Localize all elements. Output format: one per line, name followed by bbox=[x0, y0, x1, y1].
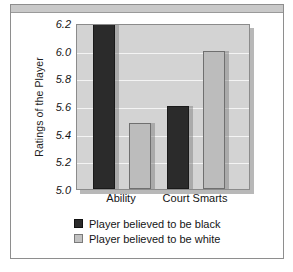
figure-top-band bbox=[11, 5, 283, 13]
bar bbox=[203, 51, 225, 189]
bar bbox=[167, 106, 189, 189]
legend-swatch-icon bbox=[74, 219, 83, 228]
y-axis-tick-label: 5.0 bbox=[47, 184, 71, 196]
figure: Ratings of the Player 5.05.25.45.65.86.0… bbox=[0, 0, 293, 272]
legend-swatch-icon bbox=[74, 234, 83, 243]
y-axis-tick-label: 6.0 bbox=[47, 46, 71, 58]
y-axis-title: Ratings of the Player bbox=[31, 42, 47, 172]
legend-item-label: Player believed to be black bbox=[89, 218, 220, 230]
bar bbox=[129, 123, 151, 189]
legend-item: Player believed to be black bbox=[74, 216, 264, 231]
y-axis-title-text: Ratings of the Player bbox=[33, 57, 45, 157]
y-axis-tick-label: 5.2 bbox=[47, 156, 71, 168]
y-axis-tick-labels: 5.05.25.45.65.86.06.2 bbox=[48, 24, 74, 190]
chart-legend: Player believed to be blackPlayer believ… bbox=[74, 216, 264, 246]
y-axis-tick-label: 5.6 bbox=[47, 101, 71, 113]
x-axis-tick-label: Court Smarts bbox=[163, 192, 228, 204]
y-axis-tick-label: 5.4 bbox=[47, 129, 71, 141]
x-axis-tick-labels: AbilityCourt Smarts bbox=[76, 192, 250, 208]
legend-item-label: Player believed to be white bbox=[89, 233, 220, 245]
y-axis-tick-label: 6.2 bbox=[47, 18, 71, 30]
legend-item: Player believed to be white bbox=[74, 231, 264, 246]
bar bbox=[93, 24, 115, 189]
y-axis-tick-label: 5.8 bbox=[47, 73, 71, 85]
x-axis-tick-label: Ability bbox=[106, 192, 135, 204]
plot-area bbox=[76, 24, 250, 190]
